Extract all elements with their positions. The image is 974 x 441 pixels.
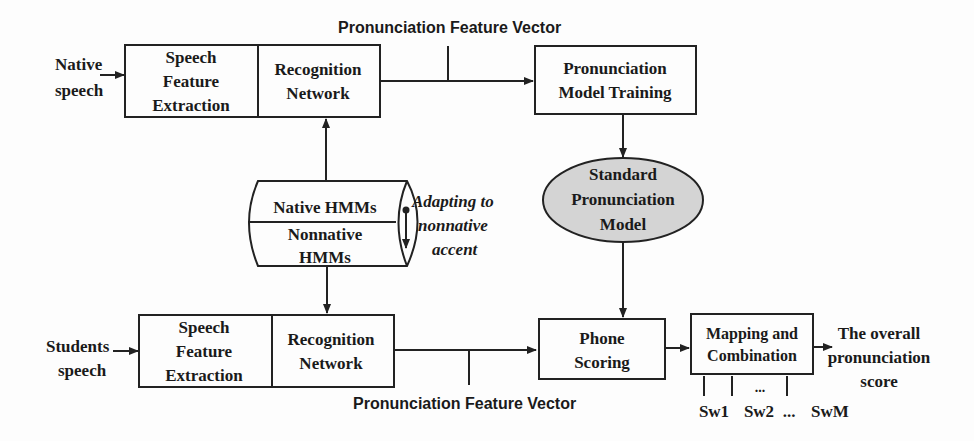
top-sfe-line3: Extraction <box>152 96 230 115</box>
students-speech-label: Students <box>46 337 110 356</box>
native-speech-label-2: speech <box>55 81 104 100</box>
bottom-sfe-line3: Extraction <box>165 366 243 385</box>
model-line2: Pronunciation <box>571 190 675 209</box>
output-line2: pronunciation <box>828 348 931 367</box>
adapting-line2: nonnative <box>418 216 488 235</box>
top-sfe-line2: Feature <box>163 72 220 91</box>
model-line1: Standard <box>589 165 658 184</box>
native-hmms-label: Native HMMs <box>273 198 377 217</box>
bottom-feature-vector-label: Pronunciation Feature Vector <box>353 395 576 412</box>
weight-sw1: Sw1 <box>699 402 729 421</box>
phone-scoring-line2: Scoring <box>574 353 630 372</box>
training-line2: Model Training <box>558 83 672 102</box>
bottom-rn-line1: Recognition <box>288 330 375 349</box>
weight-sw2: Sw2 <box>744 402 774 421</box>
training-line1: Pronunciation <box>563 59 667 78</box>
mapping-line1: Mapping and <box>706 325 798 343</box>
phone-scoring-line1: Phone <box>579 329 625 348</box>
top-rn-line2: Network <box>286 84 350 103</box>
weights-dots: ... <box>755 380 766 395</box>
adapting-line3: accent <box>432 240 479 259</box>
nonnative-hmms-line1: Nonnative <box>288 225 363 244</box>
weight-swm: SwM <box>811 402 849 421</box>
native-speech-label: Native <box>55 55 103 74</box>
bottom-rn-line2: Network <box>299 354 363 373</box>
output-line1: The overall <box>838 324 921 343</box>
model-line3: Model <box>600 215 647 234</box>
output-line3: score <box>860 372 898 391</box>
bottom-sfe-line2: Feature <box>176 342 233 361</box>
pronunciation-scoring-diagram: Pronunciation Feature Vector Native spee… <box>0 0 974 441</box>
mapping-line2: Combination <box>707 347 797 364</box>
nonnative-hmms-line2: HMMs <box>299 248 351 267</box>
students-speech-label-2: speech <box>58 361 107 380</box>
weight-ellipsis: ... <box>783 402 796 421</box>
training-box <box>535 46 696 114</box>
mapping-box <box>691 314 813 374</box>
top-sfe-line1: Speech <box>166 48 218 67</box>
bottom-sfe-line1: Speech <box>179 318 231 337</box>
adapting-line1: Adapting to <box>411 192 494 211</box>
top-rn-line1: Recognition <box>275 60 362 79</box>
top-feature-vector-label: Pronunciation Feature Vector <box>338 19 561 36</box>
